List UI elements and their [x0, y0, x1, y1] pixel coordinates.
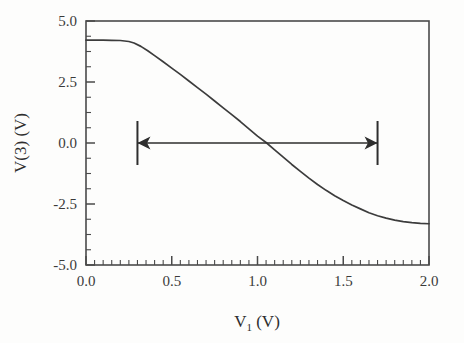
y-tick-label: 5.0 [58, 13, 77, 29]
x-axis-title: V1 (V) [234, 312, 280, 333]
y-tick-label: 0.0 [58, 135, 77, 151]
y-tick-label: 2.5 [58, 74, 77, 90]
y-tick-label: -2.5 [53, 196, 77, 212]
chart-canvas: 0.00.51.01.52.0 5.02.50.0-2.5-5.0 V1 (V)… [0, 0, 464, 343]
x-tick-label: 0.0 [77, 273, 96, 289]
x-tick-label: 1.5 [334, 273, 353, 289]
chart-figure: 0.00.51.01.52.0 5.02.50.0-2.5-5.0 V1 (V)… [0, 0, 464, 343]
x-tick-label: 1.0 [248, 273, 267, 289]
figure-background [0, 0, 464, 343]
y-tick-label: -5.0 [53, 257, 77, 273]
y-axis-title: V(3) (V) [11, 113, 30, 173]
x-tick-label: 2.0 [420, 273, 439, 289]
x-tick-label: 0.5 [162, 273, 181, 289]
